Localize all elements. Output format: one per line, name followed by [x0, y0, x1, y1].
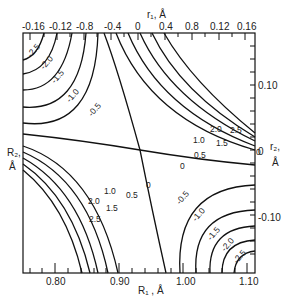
- contour-label: -2.5: [231, 247, 248, 265]
- contour-label: 1.0: [104, 186, 116, 196]
- contour-chart: -2.5 -2.0 -1.5 -1.0 -0.5 2.0 2.5 1.0 1.5…: [0, 0, 290, 297]
- top-axis-ticks: [30, 33, 245, 40]
- svg-text:0.4: 0.4: [159, 21, 173, 32]
- contours-lower-left: [23, 146, 118, 273]
- svg-text:1.10: 1.10: [239, 276, 259, 287]
- svg-text:0.90: 0.90: [110, 276, 130, 287]
- contour-label: 2.5: [230, 125, 242, 135]
- svg-text:0.16: 0.16: [237, 21, 257, 32]
- svg-text:0.12: 0.12: [210, 21, 230, 32]
- right-axis-title: r₂,: [270, 141, 280, 152]
- svg-text:-0.8: -0.8: [76, 21, 94, 32]
- contour-label: 1.5: [216, 138, 228, 148]
- contour-label: 2.5: [89, 214, 101, 224]
- svg-text:-0.12: -0.12: [49, 21, 72, 32]
- svg-text:0.10: 0.10: [258, 80, 278, 91]
- contour-label: 0: [146, 180, 151, 190]
- svg-text:0.80: 0.80: [46, 276, 66, 287]
- contour-label: 2.0: [210, 124, 222, 134]
- svg-text:-0.16: -0.16: [22, 21, 45, 32]
- contour-label: -2.0: [38, 53, 55, 71]
- top-axis-title: r₁, Å: [147, 8, 166, 20]
- svg-text:0.8: 0.8: [185, 21, 199, 32]
- svg-text:1.00: 1.00: [176, 276, 196, 287]
- svg-text:-0.4: -0.4: [104, 21, 122, 32]
- contour-label: -0.5: [174, 188, 191, 206]
- svg-text:0: 0: [258, 146, 264, 157]
- contour-label: -1.0: [64, 86, 81, 104]
- top-tick-labels: -0.16 -0.12 -0.8 -0.4 0 0.4 0.8 0.12 0.1…: [22, 21, 257, 32]
- contour-label: 0.5: [194, 150, 206, 160]
- svg-text:-0.10: -0.10: [258, 212, 281, 223]
- contour-label: 1.5: [106, 203, 118, 213]
- contour-label: 0: [180, 161, 185, 171]
- contour-label: 0.5: [126, 190, 138, 200]
- bottom-axis-ticks: [30, 263, 247, 273]
- right-axis-unit: Å: [272, 156, 279, 168]
- bottom-axis-title: R₁ , Å: [138, 284, 164, 296]
- left-axis-title: R₂,: [7, 147, 21, 158]
- contour-label: -1.5: [49, 67, 66, 85]
- svg-text:0: 0: [135, 21, 141, 32]
- contour-label: -1.0: [190, 205, 207, 223]
- contour-label: 2.0: [88, 196, 100, 206]
- contour-label: -0.5: [86, 100, 103, 118]
- left-axis-unit: Å: [9, 160, 16, 172]
- contour-label: 1.0: [193, 135, 205, 145]
